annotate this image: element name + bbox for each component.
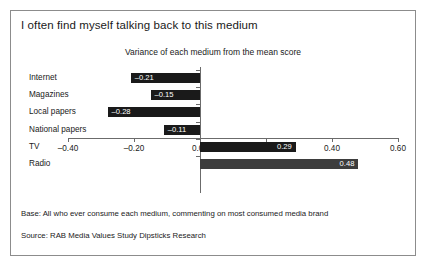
slide-frame: I often find myself talking back to this… — [10, 10, 416, 256]
bar-value-label: –0.15 — [155, 91, 174, 99]
axis-tick — [266, 138, 267, 142]
bar-value-label: –0.28 — [112, 108, 131, 116]
axis-tick — [398, 138, 399, 142]
bar-value-label: –0.11 — [168, 126, 186, 134]
row-tick — [196, 70, 200, 71]
base-note: Base: All who ever consume each medium, … — [21, 209, 328, 218]
axis-line — [68, 138, 398, 139]
axis-tick-label: 0.40 — [324, 144, 340, 153]
bar-value-label: –0.21 — [135, 74, 154, 82]
source-note: Source: RAB Media Values Study Dipsticks… — [21, 231, 206, 240]
axis-tick-label: 0.00 — [192, 144, 208, 153]
axis-tick — [332, 138, 333, 142]
chart-subtitle: Variance of each medium from the mean sc… — [11, 47, 415, 57]
bar: –0.21 — [131, 73, 200, 83]
axis-tick-label: 0.20 — [258, 144, 274, 153]
plot-area: –0.21–0.15–0.28–0.110.290.48 — [68, 67, 398, 193]
axis-tick — [200, 138, 201, 142]
bar: –0.11 — [164, 125, 200, 135]
axis-tick — [68, 138, 69, 142]
axis-tick — [134, 138, 135, 142]
axis-tick-label: 0.60 — [390, 144, 406, 153]
page-title: I often find myself talking back to this… — [21, 19, 258, 31]
bar: –0.28 — [108, 107, 200, 117]
bar: –0.15 — [151, 90, 201, 100]
row-tick — [196, 87, 200, 88]
value-axis: –0.40–0.200.000.200.400.60 — [68, 138, 398, 160]
bar-value-label: 0.48 — [340, 160, 355, 168]
bar: 0.48 — [200, 159, 358, 169]
row-tick — [196, 122, 200, 123]
zero-baseline — [200, 67, 201, 193]
bar-chart: InternetMagazinesLocal papersNational pa… — [11, 67, 416, 193]
axis-tick-label: –0.40 — [58, 144, 79, 153]
row-tick — [196, 104, 200, 105]
axis-tick-label: –0.20 — [124, 144, 145, 153]
